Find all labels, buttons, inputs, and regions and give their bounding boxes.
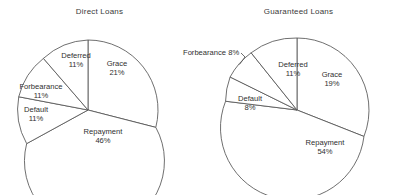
pie-chart-figure: Direct Loans Grace 21% Repayment 46% Def… bbox=[0, 0, 398, 195]
chart-panel-direct-loans: Direct Loans Grace 21% Repayment 46% Def… bbox=[0, 0, 199, 195]
pie-label-forbearance-value: 11% bbox=[19, 91, 62, 100]
pie-label-deferred-value: 11% bbox=[278, 69, 308, 78]
pie-label-repayment: Repayment 46% bbox=[84, 127, 123, 146]
pie-label-repayment-name: Repayment bbox=[306, 138, 345, 147]
pie-label-repayment-value: 46% bbox=[84, 136, 123, 145]
pie-label-grace: Grace 19% bbox=[322, 70, 343, 89]
pie-label-deferred-name: Deferred bbox=[278, 60, 308, 69]
pie-label-deferred: Deferred 11% bbox=[278, 60, 308, 79]
pie-label-repayment: Repayment 54% bbox=[306, 138, 345, 157]
pie-label-deferred: Deferred 11% bbox=[61, 51, 91, 70]
pie-label-grace: Grace 21% bbox=[107, 59, 128, 78]
pie-label-grace-value: 19% bbox=[322, 79, 343, 88]
pie-label-default-name: Default bbox=[238, 94, 262, 103]
pie-label-default: Default 11% bbox=[24, 105, 48, 124]
pie-label-default-name: Default bbox=[24, 105, 48, 114]
pie-label-grace-name: Grace bbox=[107, 59, 128, 68]
pie-label-default-value: 11% bbox=[24, 114, 48, 123]
pie-label-default: Default 8% bbox=[238, 94, 262, 113]
pie-label-repayment-name: Repayment bbox=[84, 127, 123, 136]
pie-guaranteed-loans bbox=[199, 0, 398, 195]
pie-label-grace-value: 21% bbox=[107, 68, 128, 77]
pie-label-deferred-name: Deferred bbox=[61, 51, 91, 60]
pie-label-forbearance: Forbearance 11% bbox=[19, 82, 62, 101]
pie-label-deferred-value: 11% bbox=[61, 60, 91, 69]
pie-label-default-value: 8% bbox=[238, 103, 262, 112]
pie-label-repayment-value: 54% bbox=[306, 147, 345, 156]
pie-label-forbearance-name: Forbearance 8% bbox=[183, 48, 239, 57]
pie-label-forbearance-name: Forbearance bbox=[19, 82, 62, 91]
pie-label-forbearance: Forbearance 8% bbox=[183, 48, 239, 57]
chart-panel-guaranteed-loans: Guaranteed Loans Forbearance 8% Deferred… bbox=[199, 0, 398, 195]
pie-label-grace-name: Grace bbox=[322, 70, 343, 79]
